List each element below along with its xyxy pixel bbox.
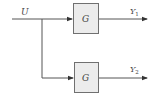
output-label-y1-sub: 1 (135, 11, 139, 17)
input-label-u: U (21, 7, 29, 17)
output-label-y2: Y2 (130, 65, 139, 75)
block-label-bottom: G (82, 73, 89, 83)
block-label-top: G (82, 14, 89, 24)
output-label-y1: Y1 (130, 7, 139, 17)
block-diagram: U G G Y1 Y2 (0, 0, 155, 98)
output-label-y2-sub: 2 (135, 69, 139, 75)
diagram-svg: U G G Y1 Y2 (0, 0, 155, 98)
